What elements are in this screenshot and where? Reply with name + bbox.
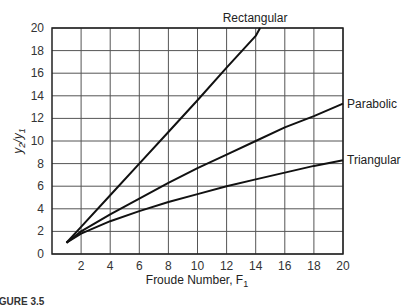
series-lines [67,28,344,243]
series-triangular [67,160,344,243]
x-tick-label: 2 [78,259,85,273]
label-rectangular: Rectangular [223,11,288,25]
y-axis-ticks: 02468101214161820 [31,21,45,261]
x-tick-label: 10 [191,259,205,273]
y-tick-label: 14 [31,89,45,103]
y-tick-label: 12 [31,111,45,125]
y-tick-label: 6 [37,179,44,193]
chart: 02468101214161820 2468101214161820 Recta… [0,0,414,307]
x-tick-label: 6 [136,259,143,273]
x-tick-label: 18 [307,259,321,273]
x-tick-label: 12 [220,259,234,273]
x-tick-label: 4 [107,259,114,273]
x-tick-label: 14 [249,259,263,273]
x-tick-label: 20 [336,259,350,273]
y-axis-label: y2/y1 [11,128,27,154]
label-triangular: Triangular [347,153,401,167]
series-rectangular [67,28,261,243]
figure-caption: IGURE 3.5 [0,296,45,307]
x-tick-label: 8 [165,259,172,273]
y-tick-label: 16 [31,66,45,80]
x-axis-ticks: 2468101214161820 [78,259,350,273]
y-tick-label: 4 [37,202,44,216]
x-axis-label: Froude Number, F1 [146,273,248,289]
y-tick-label: 10 [31,134,45,148]
x-tick-label: 16 [278,259,292,273]
y-tick-label: 20 [31,21,45,35]
y-tick-label: 2 [37,224,44,238]
y-tick-label: 0 [37,247,44,261]
label-parabolic: Parabolic [347,97,397,111]
grid-lines [52,28,343,254]
y-tick-label: 8 [37,157,44,171]
y-tick-label: 18 [31,44,45,58]
